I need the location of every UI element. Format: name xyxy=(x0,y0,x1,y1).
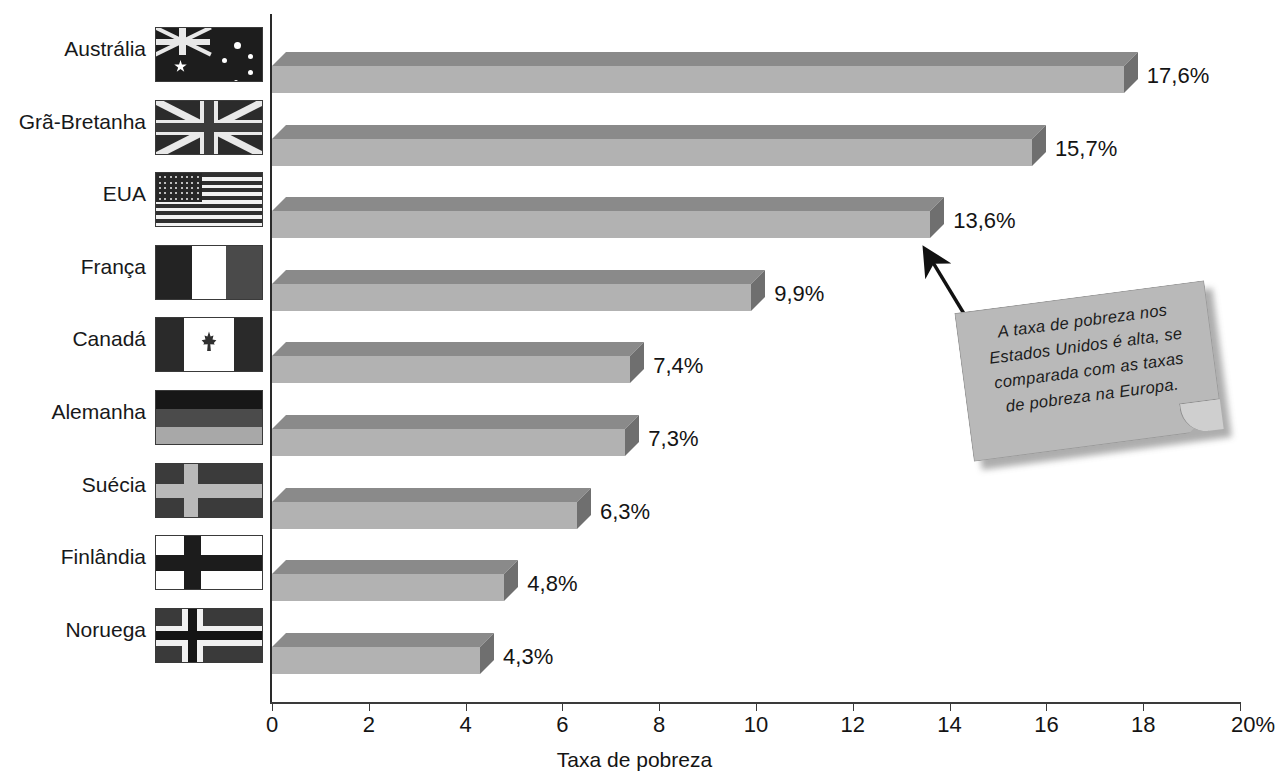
category-label-france: França xyxy=(0,255,146,279)
bar-value-label: 7,4% xyxy=(653,353,703,379)
bar-finland xyxy=(272,560,518,601)
flag-australia-icon xyxy=(155,27,263,82)
x-axis-tick-label: 2 xyxy=(363,712,375,738)
x-axis-tick-label: 18 xyxy=(1131,712,1155,738)
x-axis-tick xyxy=(950,702,951,711)
x-axis-tick-label: 10 xyxy=(744,712,768,738)
flag-germany-icon xyxy=(155,390,263,445)
bar-front-face xyxy=(272,356,630,383)
bar-australia xyxy=(272,52,1138,93)
x-axis-tick xyxy=(272,702,273,711)
bar-value-label: 6,3% xyxy=(600,499,650,525)
bar-value-label: 7,3% xyxy=(648,426,698,452)
bar-front-face xyxy=(272,574,504,601)
x-axis-tick-label: 6 xyxy=(556,712,568,738)
x-axis-tick xyxy=(1143,702,1144,711)
category-label-sweden: Suécia xyxy=(0,473,146,497)
flag-france-icon xyxy=(155,245,263,300)
flag-united-states-icon xyxy=(155,172,263,227)
bar-top-face xyxy=(272,197,944,211)
x-axis-tick xyxy=(756,702,757,711)
bar-front-face xyxy=(272,284,751,311)
bar-value-label: 17,6% xyxy=(1147,63,1209,89)
category-label-australia: Austrália xyxy=(0,37,146,61)
bar-united-states xyxy=(272,197,944,238)
category-label-germany: Alemanha xyxy=(0,400,146,424)
x-axis-tick xyxy=(853,702,854,711)
bar-top-face xyxy=(272,52,1138,66)
bar-top-face xyxy=(272,342,644,356)
bar-top-face xyxy=(272,270,765,284)
x-axis-tick xyxy=(659,702,660,711)
x-axis-tick-label: 14 xyxy=(937,712,961,738)
x-axis-tick-label: 0 xyxy=(266,712,278,738)
bar-front-face xyxy=(272,502,577,529)
bar-top-face xyxy=(272,633,494,647)
bar-front-face xyxy=(272,211,930,238)
bar-value-label: 9,9% xyxy=(774,281,824,307)
x-axis-tick-label: 12 xyxy=(841,712,865,738)
bar-canada xyxy=(272,342,644,383)
x-axis-tick xyxy=(466,702,467,711)
bar-value-label: 4,8% xyxy=(527,571,577,597)
bar-top-face xyxy=(272,560,518,574)
x-axis-tick-label: 20% xyxy=(1231,712,1275,738)
bar-sweden xyxy=(272,488,591,529)
bar-front-face xyxy=(272,429,625,456)
bar-front-face xyxy=(272,647,480,674)
y-axis-line xyxy=(270,14,272,704)
callout-note: A taxa de pobreza nos Estados Unidos é a… xyxy=(954,280,1223,462)
x-axis-tick xyxy=(562,702,563,711)
bar-united-kingdom xyxy=(272,125,1046,166)
category-label-finland: Finlândia xyxy=(0,545,146,569)
cropped-header-text xyxy=(8,0,428,8)
bar-value-label: 4,3% xyxy=(503,644,553,670)
x-axis-tick xyxy=(1240,702,1241,711)
category-label-canada: Canadá xyxy=(0,327,146,351)
flag-united-kingdom-icon xyxy=(155,100,263,155)
bar-front-face xyxy=(272,139,1032,166)
category-label-united-kingdom: Grã-Bretanha xyxy=(0,110,146,134)
flag-sweden-icon xyxy=(155,463,263,518)
bar-france xyxy=(272,270,765,311)
x-axis-tick xyxy=(1046,702,1047,711)
bar-value-label: 13,6% xyxy=(953,208,1015,234)
x-axis-tick-label: 8 xyxy=(653,712,665,738)
bar-norway xyxy=(272,633,494,674)
x-axis-tick-label: 16 xyxy=(1034,712,1058,738)
x-axis-tick xyxy=(369,702,370,711)
category-label-norway: Noruega xyxy=(0,618,146,642)
bar-top-face xyxy=(272,125,1046,139)
flag-norway-icon xyxy=(155,608,263,663)
x-axis-tick-label: 4 xyxy=(459,712,471,738)
x-axis-line xyxy=(270,702,1240,704)
flag-canada-icon xyxy=(155,317,263,372)
bar-value-label: 15,7% xyxy=(1055,136,1117,162)
category-label-united-states: EUA xyxy=(0,182,146,206)
flag-finland-icon xyxy=(155,535,263,590)
bar-top-face xyxy=(272,415,639,429)
bar-germany xyxy=(272,415,639,456)
x-axis-title: Taxa de pobreza xyxy=(0,748,1269,772)
bar-top-face xyxy=(272,488,591,502)
bar-front-face xyxy=(272,66,1124,93)
